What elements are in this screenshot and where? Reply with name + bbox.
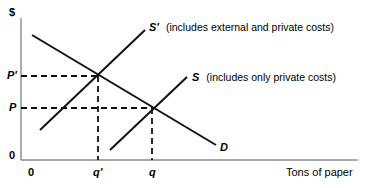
curve-label-s-prime: S': [149, 21, 159, 33]
quantity-tick-q-prime: q': [93, 167, 102, 178]
y-axis-origin-label: 0: [9, 150, 15, 161]
x-axis-origin-label: 0: [28, 167, 34, 178]
supply-curve-s-prime: [40, 30, 145, 130]
curve-label-s: S: [192, 71, 199, 83]
supply-demand-diagram: $ 0 P' P q' q 0 Tons of paper S'(include…: [0, 0, 366, 188]
price-tick-p: P: [9, 102, 16, 113]
demand-curve: [32, 35, 216, 145]
curve-description-s: (includes only private costs): [206, 71, 336, 83]
x-axis-title: Tons of paper: [286, 167, 353, 178]
curve-label-s-prime-group: S'(includes external and private costs): [149, 18, 334, 34]
curve-label-s-group: S(includes only private costs): [192, 68, 336, 84]
quantity-tick-q: q: [149, 167, 156, 178]
price-tick-p-prime: P': [7, 70, 17, 81]
y-axis-unit-label: $: [9, 7, 15, 18]
curve-label-d: D: [220, 142, 228, 153]
curve-description-s-prime: (includes external and private costs): [166, 21, 334, 33]
